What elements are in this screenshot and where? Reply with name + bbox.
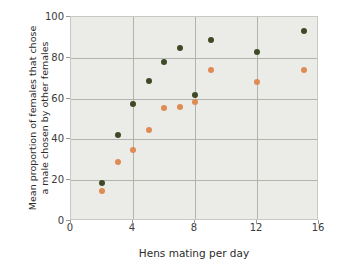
y-tick-label: 80 bbox=[51, 51, 64, 62]
data-point bbox=[254, 49, 260, 55]
y-axis-label-line-1: Mean proportion of females that chose bbox=[27, 26, 39, 210]
data-point bbox=[99, 188, 105, 194]
gridline-horizontal bbox=[71, 180, 317, 181]
data-point bbox=[208, 67, 214, 73]
plot-area bbox=[70, 16, 318, 220]
y-tick-label: 100 bbox=[45, 11, 64, 22]
data-point bbox=[161, 59, 167, 65]
y-tick-mark bbox=[66, 138, 70, 139]
data-point bbox=[177, 104, 183, 110]
gridline-horizontal bbox=[71, 58, 317, 59]
gridline-horizontal bbox=[71, 139, 317, 140]
data-point bbox=[130, 101, 136, 107]
data-point bbox=[192, 92, 198, 98]
data-point bbox=[115, 132, 121, 138]
y-tick-label: 20 bbox=[51, 174, 64, 185]
data-point bbox=[301, 67, 307, 73]
x-tick-mark bbox=[70, 220, 71, 224]
y-tick-mark bbox=[66, 16, 70, 17]
gridline-vertical bbox=[195, 17, 196, 219]
x-tick-mark bbox=[256, 220, 257, 224]
data-point bbox=[177, 45, 183, 51]
data-point bbox=[254, 79, 260, 85]
x-axis-label: Hens mating per day bbox=[70, 247, 318, 259]
gridline-vertical bbox=[257, 17, 258, 219]
y-tick-mark bbox=[66, 98, 70, 99]
y-tick-label: 0 bbox=[58, 215, 64, 226]
data-point bbox=[130, 147, 136, 153]
y-axis-label: Mean proportion of females that chose a … bbox=[18, 16, 60, 220]
y-tick-mark bbox=[66, 220, 70, 221]
y-axis-label-line-2: a male chosen by other females bbox=[39, 26, 51, 210]
data-point bbox=[208, 37, 214, 43]
data-point bbox=[99, 180, 105, 186]
data-point bbox=[161, 105, 167, 111]
gridline-vertical bbox=[133, 17, 134, 219]
data-point bbox=[146, 78, 152, 84]
data-point bbox=[192, 99, 198, 105]
y-tick-label: 60 bbox=[51, 92, 64, 103]
x-tick-mark bbox=[194, 220, 195, 224]
scatter-plot-figure: Hens mating per day Mean proportion of f… bbox=[0, 0, 353, 271]
data-point bbox=[146, 127, 152, 133]
y-tick-mark bbox=[66, 57, 70, 58]
data-point bbox=[115, 159, 121, 165]
y-tick-mark bbox=[66, 179, 70, 180]
x-tick-mark bbox=[132, 220, 133, 224]
y-tick-label: 40 bbox=[51, 133, 64, 144]
x-tick-mark bbox=[318, 220, 319, 224]
data-point bbox=[301, 28, 307, 34]
